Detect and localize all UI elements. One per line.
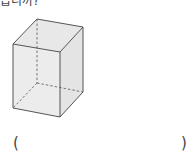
answer-paren-close: ) <box>181 134 187 152</box>
answer-paren-open: ( <box>13 134 19 152</box>
rectangular-prism-figure <box>0 0 100 125</box>
